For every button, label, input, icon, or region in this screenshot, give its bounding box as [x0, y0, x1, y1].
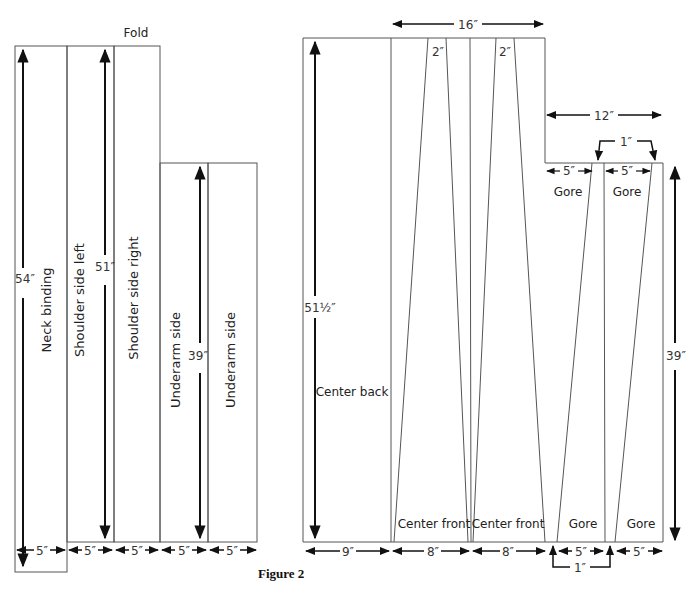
height-neck-label: 54″: [15, 272, 35, 286]
center-back-label: Center back: [316, 385, 389, 399]
label-neck-binding: Neck binding: [39, 268, 54, 353]
top-width-label: 16″: [458, 18, 478, 32]
gore-top-w1-label: 5″: [563, 164, 576, 178]
step-width-label: 12″: [594, 109, 614, 123]
label-underarm-2: Underarm side: [223, 312, 238, 408]
height-underarm-label: 39″: [188, 349, 208, 363]
label-underarm-1: Underarm side: [168, 312, 183, 408]
label-shoulder-right: Shoulder side right: [126, 236, 141, 359]
width-shoulder-right-label: 5″: [131, 544, 144, 558]
figure-caption: Figure 2: [258, 566, 304, 581]
bottom-dim-3: 8″: [502, 545, 515, 559]
gore-top-w2-label: 5″: [621, 164, 634, 178]
bottom-dim-2: 8″: [427, 545, 440, 559]
width-underarm-2-label: 5″: [226, 544, 239, 558]
width-shoulder-left-label: 5″: [84, 544, 97, 558]
gore-top-1-label: Gore: [554, 185, 583, 199]
pattern-diagram: Fold 54″ 51″ 39″ Neck binding Shoulder s…: [0, 0, 696, 589]
height-right-label: 39″: [666, 349, 686, 363]
center-front-1-label: Center front: [398, 517, 471, 531]
height-shoulder-label: 51″: [95, 260, 115, 274]
bottom-dim-5: 5″: [633, 545, 646, 559]
height-left-label: 51½″: [304, 301, 336, 315]
gore-bottom-2-label: Gore: [627, 517, 656, 531]
fold-label: Fold: [124, 26, 149, 40]
gore-bottom-1-label: Gore: [569, 517, 598, 531]
gore-gap-top-label: 1″: [620, 135, 633, 149]
gore-top-2-label: Gore: [613, 185, 642, 199]
label-shoulder-left: Shoulder side left: [72, 243, 87, 357]
bottom-dim-4: 5″: [575, 545, 588, 559]
dart-1-label: 2″: [432, 45, 445, 59]
center-front-2-label: Center front: [472, 517, 545, 531]
bottom-dim-1: 9″: [342, 545, 355, 559]
width-neck-label: 5″: [36, 544, 49, 558]
dart-2-label: 2″: [499, 45, 512, 59]
width-underarm-1-label: 5″: [178, 544, 191, 558]
gore-gap-bottom-label: 1″: [574, 561, 587, 575]
